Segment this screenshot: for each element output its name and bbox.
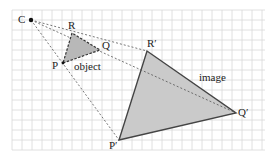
image-triangle: [119, 51, 236, 140]
label-q: Q: [102, 40, 110, 51]
label-p: P: [52, 60, 58, 71]
label-r: R: [68, 20, 75, 31]
label-centre: C: [18, 14, 25, 25]
label-object: object: [74, 61, 101, 72]
label-q-prime: Q′: [238, 107, 248, 118]
label-r-prime: R′: [147, 38, 157, 49]
label-image: image: [199, 72, 226, 83]
label-p-prime: P′: [109, 140, 118, 151]
point-p: [62, 62, 65, 65]
diagram-canvas: [0, 0, 273, 157]
centre-point: [29, 18, 33, 22]
object-triangle: [63, 33, 100, 63]
